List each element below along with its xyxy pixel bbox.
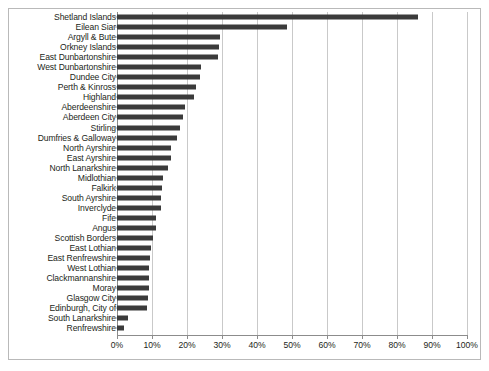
bar-track xyxy=(117,32,467,42)
bar-row: Aberdeen City xyxy=(8,112,481,122)
category-label: Orkney Islands xyxy=(60,43,116,52)
plot-area: Shetland IslandsEilean SiarArgyll & Bute… xyxy=(8,12,481,356)
category-label: East Renfrewshire xyxy=(47,254,116,263)
bar xyxy=(117,25,287,30)
bar-track xyxy=(117,52,467,62)
bar-track xyxy=(117,143,467,153)
x-tick xyxy=(152,335,153,339)
x-tick-label: 50% xyxy=(283,340,300,351)
bar xyxy=(117,135,177,140)
bar xyxy=(117,236,153,241)
bar-row: Dundee City xyxy=(8,72,481,82)
x-tick xyxy=(222,335,223,339)
bar-track xyxy=(117,213,467,223)
bar-row: Aberdeenshire xyxy=(8,102,481,112)
bar-row: North Lanarkshire xyxy=(8,163,481,173)
x-tick-label: 0% xyxy=(111,340,123,351)
bar-row: Stirling xyxy=(8,123,481,133)
bar-row: Inverclyde xyxy=(8,203,481,213)
category-label: Perth & Kinross xyxy=(58,83,116,92)
bar-row: Moray xyxy=(8,283,481,293)
bar-track xyxy=(117,323,467,333)
bar xyxy=(117,175,163,180)
bar xyxy=(117,105,185,110)
category-label: East Ayrshire xyxy=(67,153,116,162)
x-tick-label: 100% xyxy=(456,340,478,351)
bar-row: West Lothian xyxy=(8,263,481,273)
bar-track xyxy=(117,72,467,82)
bar xyxy=(117,145,171,150)
category-label: East Lothian xyxy=(69,244,116,253)
bar xyxy=(117,256,150,261)
bar-row: Glasgow City xyxy=(8,293,481,303)
bar-row: Eilean Siar xyxy=(8,22,481,32)
bar-track xyxy=(117,133,467,143)
category-label: Dumfries & Galloway xyxy=(38,133,116,142)
x-tick xyxy=(362,335,363,339)
x-tick xyxy=(117,335,118,339)
bar-track xyxy=(117,233,467,243)
bar-row: Clackmannanshire xyxy=(8,273,481,283)
bar-track xyxy=(117,273,467,283)
bar xyxy=(117,326,124,331)
x-tick xyxy=(292,335,293,339)
x-tick-label: 20% xyxy=(178,340,195,351)
category-label: West Dunbartonshire xyxy=(37,63,116,72)
bar xyxy=(117,306,147,311)
bar xyxy=(117,45,219,50)
bar xyxy=(117,115,183,120)
bar-row: East Dunbartonshire xyxy=(8,52,481,62)
bar-row: Shetland Islands xyxy=(8,12,481,22)
category-label: Scottish Borders xyxy=(55,234,116,243)
bar xyxy=(117,125,180,130)
bar xyxy=(117,15,418,20)
category-label: Argyll & Bute xyxy=(68,33,116,42)
bar xyxy=(117,205,161,210)
bar xyxy=(117,246,151,251)
bar xyxy=(117,276,149,281)
bar xyxy=(117,95,194,100)
bar xyxy=(117,75,200,80)
bar-row: East Renfrewshire xyxy=(8,253,481,263)
category-label: South Ayrshire xyxy=(62,193,116,202)
bar-track xyxy=(117,163,467,173)
bar-track xyxy=(117,112,467,122)
bar xyxy=(117,316,128,321)
category-label: Aberdeen City xyxy=(63,113,116,122)
category-label: Aberdeenshire xyxy=(61,103,116,112)
bar-track xyxy=(117,42,467,52)
category-label: Glasgow City xyxy=(67,294,116,303)
bar-track xyxy=(117,283,467,293)
x-tick-label: 10% xyxy=(143,340,160,351)
category-label: Inverclyde xyxy=(78,203,116,212)
bar-row: Orkney Islands xyxy=(8,42,481,52)
x-axis-tick-labels: 0%10%20%30%40%50%60%70%80%90%100% xyxy=(117,340,467,354)
bar-row: Falkirk xyxy=(8,183,481,193)
x-axis-ticks xyxy=(117,335,467,339)
bar-row: North Ayrshire xyxy=(8,143,481,153)
bar xyxy=(117,226,156,231)
category-label: Dundee City xyxy=(70,73,116,82)
x-tick xyxy=(432,335,433,339)
x-tick-label: 70% xyxy=(353,340,370,351)
bar-track xyxy=(117,203,467,213)
bar xyxy=(117,266,149,271)
bar xyxy=(117,85,196,90)
bar-row: West Dunbartonshire xyxy=(8,62,481,72)
category-label: Edinburgh, City of xyxy=(49,304,116,313)
chart-figure: Shetland IslandsEilean SiarArgyll & Bute… xyxy=(0,0,489,371)
bar-track xyxy=(117,62,467,72)
bar-track xyxy=(117,183,467,193)
bar-row: Edinburgh, City of xyxy=(8,303,481,313)
category-label: North Ayrshire xyxy=(63,143,116,152)
category-label: Clackmannanshire xyxy=(46,274,116,283)
x-tick-label: 40% xyxy=(248,340,265,351)
bar-track xyxy=(117,22,467,32)
x-tick xyxy=(467,335,468,339)
category-label: West Lothian xyxy=(67,264,116,273)
bar-row: East Lothian xyxy=(8,243,481,253)
category-label: Shetland Islands xyxy=(54,13,116,22)
bar-track xyxy=(117,263,467,273)
category-label: North Lanarkshire xyxy=(49,163,116,172)
bar-track xyxy=(117,253,467,263)
